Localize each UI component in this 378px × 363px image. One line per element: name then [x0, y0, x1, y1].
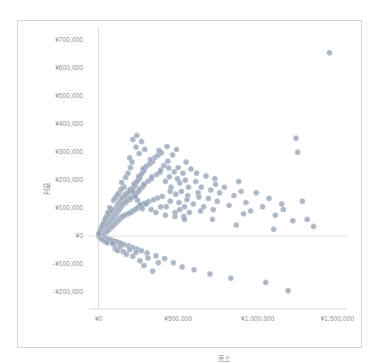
data-point — [174, 147, 179, 152]
data-point — [145, 256, 150, 261]
data-point — [266, 196, 271, 201]
data-point — [222, 185, 227, 190]
data-point — [212, 176, 217, 181]
data-point — [133, 145, 138, 150]
y-tick-label: ¥600,000 — [26, 64, 83, 71]
x-tick-label: ¥500,000 — [148, 315, 208, 322]
data-point — [194, 171, 199, 176]
y-tick-label: ¥400,000 — [26, 120, 83, 127]
data-point — [169, 185, 174, 190]
y-tick-label: ¥100,000 — [26, 204, 83, 211]
data-point — [273, 213, 278, 218]
x-axis-title: 売上 — [194, 354, 254, 363]
data-point — [228, 276, 233, 281]
chart-container: ¥700,000¥600,000¥500,000¥400,000¥300,000… — [17, 20, 362, 348]
data-point — [215, 199, 220, 204]
data-point — [149, 207, 154, 212]
data-point — [191, 202, 196, 207]
data-point — [119, 180, 124, 185]
data-point — [183, 178, 188, 183]
data-point — [271, 227, 276, 232]
data-point — [137, 151, 142, 156]
data-point — [166, 165, 171, 170]
data-point — [164, 204, 169, 209]
y-tick-label: ¥0 — [26, 232, 83, 239]
data-point — [165, 144, 170, 149]
data-point — [254, 190, 259, 195]
data-point — [290, 218, 295, 223]
data-point — [128, 165, 133, 170]
data-point — [179, 189, 184, 194]
data-point — [263, 280, 268, 285]
data-point — [145, 251, 150, 256]
data-points-layer — [96, 50, 332, 293]
data-point — [182, 204, 187, 209]
data-point — [208, 272, 213, 277]
data-point — [243, 200, 248, 205]
data-point — [177, 207, 182, 212]
data-point — [294, 136, 299, 141]
data-point — [192, 267, 197, 272]
data-point — [168, 199, 173, 204]
data-point — [206, 196, 211, 201]
data-point — [142, 147, 147, 152]
data-point — [187, 210, 192, 215]
y-tick-label: ¥200,000 — [26, 176, 83, 183]
data-point — [130, 189, 135, 194]
data-point — [305, 217, 310, 222]
data-point — [155, 196, 160, 201]
data-point — [165, 159, 170, 164]
data-point — [170, 153, 175, 158]
data-point — [208, 188, 213, 193]
data-point — [184, 197, 189, 202]
data-point — [163, 213, 168, 218]
data-point — [199, 185, 204, 190]
data-point — [124, 252, 129, 257]
data-point — [139, 248, 144, 253]
x-tick-label: ¥0 — [69, 315, 129, 322]
data-point — [150, 269, 155, 274]
data-point — [156, 260, 161, 265]
data-point — [119, 187, 124, 192]
data-point — [279, 202, 284, 207]
data-point — [180, 171, 185, 176]
data-point — [260, 204, 265, 209]
y-tick-label: -¥100,000 — [26, 260, 83, 267]
data-point — [127, 247, 132, 252]
data-point — [196, 195, 201, 200]
data-point — [211, 207, 216, 212]
data-point — [158, 168, 163, 173]
data-point — [188, 167, 193, 172]
data-point — [184, 160, 189, 165]
data-point — [162, 256, 167, 261]
data-point — [161, 163, 166, 168]
data-point — [286, 288, 291, 293]
data-point — [167, 174, 172, 179]
data-point — [248, 209, 253, 214]
data-point — [172, 169, 177, 174]
data-point — [173, 214, 178, 219]
data-point — [204, 174, 209, 179]
data-point — [130, 160, 135, 165]
y-tick-label: ¥300,000 — [26, 148, 83, 155]
data-point — [217, 190, 222, 195]
data-point — [176, 200, 181, 205]
data-point — [134, 133, 139, 138]
data-point — [176, 165, 181, 170]
data-point — [157, 148, 162, 153]
y-tick-label: -¥200,000 — [26, 288, 83, 295]
data-point — [241, 211, 246, 216]
data-point — [160, 194, 165, 199]
data-point — [153, 210, 158, 215]
data-point — [327, 50, 332, 55]
data-point — [213, 182, 218, 187]
y-axis-title: 利益 — [42, 177, 51, 201]
y-tick-label: ¥700,000 — [26, 36, 83, 43]
data-point — [148, 157, 153, 162]
data-point — [107, 205, 112, 210]
data-point — [105, 240, 110, 245]
data-point — [118, 244, 123, 249]
x-tick-label: ¥1,500,000 — [307, 315, 367, 322]
data-point — [193, 179, 198, 184]
data-point — [158, 204, 163, 209]
